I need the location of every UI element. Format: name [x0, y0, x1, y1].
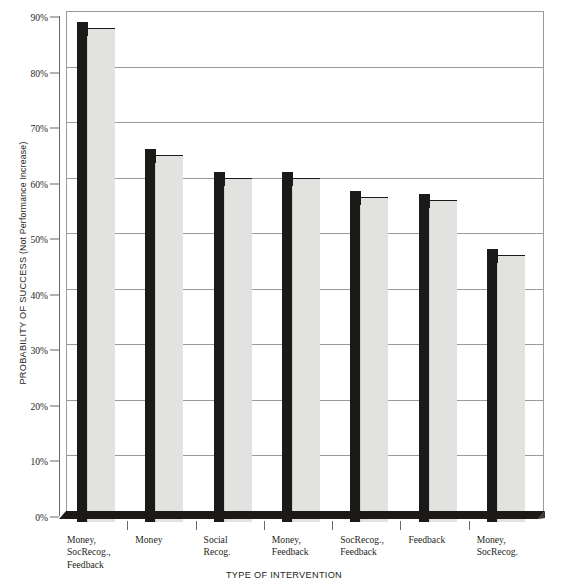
bar-front-face [360, 197, 388, 522]
bar [350, 191, 388, 522]
bar-front-face [497, 255, 525, 522]
y-axis-tick-labels: 0%10%20%30%40%50%60%70%80%90% [12, 0, 48, 586]
y-axis-tick-label: 0% [14, 512, 48, 523]
plot-right-border [543, 11, 544, 511]
y-axis-tick-label: 30% [14, 345, 48, 356]
bar [419, 194, 457, 522]
y-axis-tick-label: 60% [14, 178, 48, 189]
bar-front-face [87, 28, 115, 522]
y-axis-tick-mark [50, 239, 59, 240]
bar-front-face [155, 155, 183, 522]
gridline [66, 122, 544, 123]
y-axis-tick-mark [50, 405, 59, 406]
bar-top-bevel [419, 194, 457, 202]
bar-top-bevel [77, 22, 115, 30]
bar-front-face [429, 200, 457, 522]
x-axis-category-line: Recog. [204, 546, 280, 558]
gridline-depth-stub [59, 67, 67, 73]
bar-top-bevel [487, 249, 525, 257]
x-axis-tick-mark [469, 521, 470, 530]
y-axis-tick-mark [50, 461, 59, 462]
gridline-depth-stub [59, 344, 67, 350]
x-axis-category-line: SocRecog., [340, 534, 416, 546]
bar [487, 249, 525, 522]
x-axis-category-label: Money [135, 534, 211, 546]
floor-svg [59, 507, 545, 519]
x-axis-category-label: Money,Feedback [272, 534, 348, 559]
x-axis-category-line: Money, [67, 534, 143, 546]
bar-top-bevel [282, 172, 320, 180]
clipped-caption-text [58, 0, 528, 6]
plot-top-border [66, 11, 544, 12]
bar [282, 172, 320, 522]
x-axis-category-line: Social [204, 534, 280, 546]
bar-top-bevel [350, 191, 388, 199]
x-axis-category-line: SocRecog., [67, 546, 143, 558]
y-axis-tick-label: 10% [14, 456, 48, 467]
x-axis-category-line: Money, [477, 534, 553, 546]
y-axis-tick-label: 50% [14, 234, 48, 245]
x-axis-category-line: Money, [272, 534, 348, 546]
x-axis-tick-mark [264, 521, 265, 530]
bar [145, 149, 183, 522]
x-axis-category-line: Feedback [340, 546, 416, 558]
x-axis-category-label: Feedback [408, 534, 484, 546]
x-axis-title: TYPE OF INTERVENTION [0, 570, 568, 580]
x-axis-category-label: SocialRecog. [204, 534, 280, 559]
x-axis-category-line: Feedback [408, 534, 484, 546]
gridline-depth-stub [59, 178, 67, 184]
x-axis-category-line: SocRecog. [477, 546, 553, 558]
plot-area [66, 11, 544, 516]
gridline-depth-stub [59, 289, 67, 295]
y-axis-tick-label: 90% [14, 12, 48, 23]
gridline-depth-stub [59, 122, 67, 128]
y-axis-tick-mark [50, 350, 59, 351]
x-axis-category-label: Money,SocRecog. [477, 534, 553, 559]
bar-front-face [292, 178, 320, 522]
bar [214, 172, 252, 522]
bar-front-face [224, 178, 252, 522]
y-axis-tick-mark [50, 294, 59, 295]
x-axis-category-line: Money [135, 534, 211, 546]
x-axis-category-label: Money,SocRecog.,Feedback [67, 534, 143, 571]
y-axis-tick-mark [50, 72, 59, 73]
y-axis-tick-label: 20% [14, 400, 48, 411]
x-axis-tick-mark [196, 521, 197, 530]
x-axis-tick-mark [127, 521, 128, 530]
y-axis-tick-label: 40% [14, 289, 48, 300]
y-axis-line [59, 16, 60, 516]
bar [77, 22, 115, 522]
y-axis-tick-label: 70% [14, 123, 48, 134]
gridline-depth-stub [59, 400, 67, 406]
bar-top-bevel [145, 149, 183, 157]
y-axis-tick-mark [50, 17, 59, 18]
y-axis-tick-mark [50, 517, 59, 518]
x-axis-tick-mark [400, 521, 401, 530]
x-axis-tick-mark [332, 521, 333, 530]
y-axis-tick-mark [50, 128, 59, 129]
y-axis-tick-label: 80% [14, 67, 48, 78]
gridline [66, 67, 544, 68]
x-axis-category-line: Feedback [272, 546, 348, 558]
bar-chart: PROBABILITY OF SUCCESS (Not Performance … [0, 0, 568, 586]
y-axis-tick-mark [50, 183, 59, 184]
gridline-depth-stub [59, 233, 67, 239]
gridline-depth-stub [59, 455, 67, 461]
bar-top-bevel [214, 172, 252, 180]
chart-floor-slab [59, 505, 545, 517]
x-axis-category-label: SocRecog.,Feedback [340, 534, 416, 559]
